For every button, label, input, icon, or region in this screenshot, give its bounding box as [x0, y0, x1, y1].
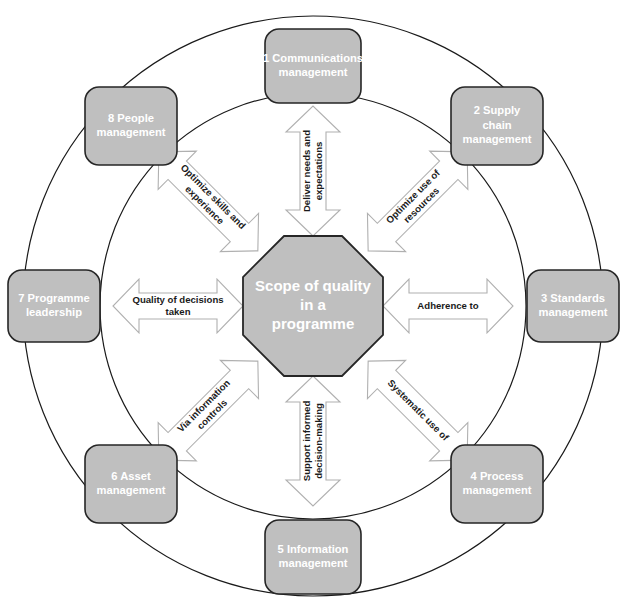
connector-communications-label-line: Deliver needs and [301, 130, 312, 212]
connector-process-label-line: Systematic use of [386, 377, 452, 443]
node-standards-management[interactable]: 3 Standardsmanagement [527, 270, 619, 342]
node-communications-management-label: 1 Communications [263, 52, 363, 64]
node-programme-leadership-label: leadership [26, 306, 82, 318]
node-supply-chain-management-label: 2 Supply [474, 104, 521, 116]
node-communications-management[interactable]: 1 Communicationsmanagement [263, 29, 363, 103]
node-people-management-label: management [96, 126, 165, 138]
node-people-management-label: 8 People [108, 112, 154, 124]
node-supply-chain-management-label: management [462, 133, 531, 145]
node-standards-management-label: 3 Standards [541, 292, 605, 304]
connector-information-label-line: Support informed [301, 401, 312, 482]
center-octagon-label: in a [300, 296, 326, 313]
node-supply-chain-management-label: chain [482, 119, 511, 131]
node-asset-management-label: management [96, 484, 165, 496]
connector-communications-label-line: expectations [313, 142, 324, 201]
node-asset-management[interactable]: 6 Assetmanagement [85, 445, 177, 523]
node-programme-leadership[interactable]: 7 Programmeleadership [8, 270, 100, 342]
center-octagon: Scope of qualityin aprogramme [243, 236, 383, 376]
connector-information-label-line: decision-making [313, 403, 324, 479]
connector-communications-label: Deliver needs andexpectations [301, 130, 324, 212]
node-programme-leadership-label: 7 Programme [18, 292, 90, 304]
node-information-management-label: management [278, 557, 347, 569]
connector-programme-leadership-label-line: Quality of decisions [132, 294, 223, 305]
node-process-management[interactable]: 4 Processmanagement [451, 445, 543, 523]
node-supply-chain-management[interactable]: 2 Supplychainmanagement [451, 87, 543, 165]
node-information-management-label: 5 Information [278, 543, 349, 555]
connector-information-label: Support informeddecision-making [301, 401, 324, 482]
connector-standards-label: Adherence to [417, 300, 478, 311]
diagram-canvas: Scope of qualityin aprogramme 1 Communic… [0, 0, 627, 612]
connector-process-label: Systematic use of [386, 377, 452, 443]
node-communications-management-label: management [278, 66, 347, 78]
center-octagon-label: Scope of quality [255, 277, 372, 294]
connector-programme-leadership-label-line: taken [165, 306, 190, 317]
quality-scope-diagram: Scope of qualityin aprogramme 1 Communic… [0, 0, 627, 612]
connector-standards-label-line: Adherence to [417, 300, 478, 311]
node-process-management-label: 4 Process [471, 470, 524, 482]
center-octagon-label: programme [272, 315, 355, 332]
node-information-management[interactable]: 5 Informationmanagement [265, 520, 361, 594]
node-asset-management-label: 6 Asset [111, 470, 151, 482]
node-people-management[interactable]: 8 Peoplemanagement [85, 87, 177, 165]
node-standards-management-label: management [538, 306, 607, 318]
node-process-management-label: management [462, 484, 531, 496]
